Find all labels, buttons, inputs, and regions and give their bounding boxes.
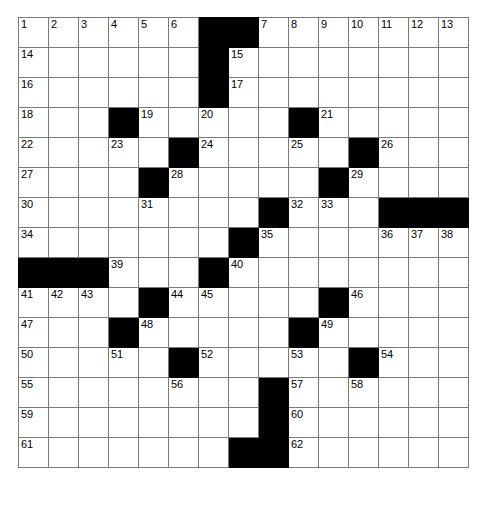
grid-cell[interactable] xyxy=(49,168,79,198)
grid-cell[interactable] xyxy=(229,348,259,378)
grid-cell[interactable] xyxy=(139,138,169,168)
grid-cell[interactable] xyxy=(139,438,169,468)
grid-cell[interactable] xyxy=(49,378,79,408)
grid-cell[interactable] xyxy=(379,288,409,318)
grid-cell[interactable] xyxy=(439,378,469,408)
grid-cell[interactable] xyxy=(79,168,109,198)
grid-cell[interactable]: 48 xyxy=(139,318,169,348)
grid-cell[interactable] xyxy=(109,228,139,258)
grid-cell[interactable]: 32 xyxy=(289,198,319,228)
grid-cell[interactable]: 33 xyxy=(319,198,349,228)
grid-cell[interactable]: 45 xyxy=(199,288,229,318)
grid-cell[interactable] xyxy=(169,48,199,78)
grid-cell[interactable] xyxy=(319,348,349,378)
grid-cell[interactable]: 5 xyxy=(139,18,169,48)
grid-cell[interactable] xyxy=(319,48,349,78)
grid-cell[interactable] xyxy=(439,108,469,138)
grid-cell[interactable] xyxy=(259,348,289,378)
grid-cell[interactable] xyxy=(439,288,469,318)
grid-cell[interactable]: 1 xyxy=(19,18,49,48)
grid-cell[interactable]: 4 xyxy=(109,18,139,48)
grid-cell[interactable] xyxy=(349,108,379,138)
grid-cell[interactable] xyxy=(259,258,289,288)
grid-cell[interactable] xyxy=(439,78,469,108)
grid-cell[interactable]: 58 xyxy=(349,378,379,408)
grid-cell[interactable]: 52 xyxy=(199,348,229,378)
grid-cell[interactable] xyxy=(319,258,349,288)
grid-cell[interactable] xyxy=(169,438,199,468)
grid-cell[interactable] xyxy=(49,348,79,378)
grid-cell[interactable] xyxy=(439,138,469,168)
grid-cell[interactable] xyxy=(259,78,289,108)
grid-cell[interactable] xyxy=(409,108,439,138)
grid-cell[interactable]: 19 xyxy=(139,108,169,138)
grid-cell[interactable] xyxy=(49,78,79,108)
grid-cell[interactable] xyxy=(409,348,439,378)
grid-cell[interactable] xyxy=(139,48,169,78)
grid-cell[interactable]: 49 xyxy=(319,318,349,348)
grid-cell[interactable] xyxy=(169,228,199,258)
grid-cell[interactable]: 44 xyxy=(169,288,199,318)
grid-cell[interactable] xyxy=(79,348,109,378)
grid-cell[interactable] xyxy=(49,48,79,78)
grid-cell[interactable] xyxy=(49,138,79,168)
grid-cell[interactable]: 37 xyxy=(409,228,439,258)
grid-cell[interactable] xyxy=(109,408,139,438)
grid-cell[interactable]: 23 xyxy=(109,138,139,168)
grid-cell[interactable]: 16 xyxy=(19,78,49,108)
grid-cell[interactable] xyxy=(79,78,109,108)
grid-cell[interactable] xyxy=(109,48,139,78)
grid-cell[interactable] xyxy=(169,108,199,138)
grid-cell[interactable]: 26 xyxy=(379,138,409,168)
grid-cell[interactable] xyxy=(169,258,199,288)
grid-cell[interactable] xyxy=(229,108,259,138)
grid-cell[interactable] xyxy=(409,48,439,78)
grid-cell[interactable] xyxy=(79,378,109,408)
grid-cell[interactable]: 43 xyxy=(79,288,109,318)
grid-cell[interactable] xyxy=(109,378,139,408)
grid-cell[interactable] xyxy=(439,48,469,78)
grid-cell[interactable]: 30 xyxy=(19,198,49,228)
grid-cell[interactable] xyxy=(319,138,349,168)
grid-cell[interactable]: 12 xyxy=(409,18,439,48)
grid-cell[interactable] xyxy=(259,168,289,198)
grid-cell[interactable]: 11 xyxy=(379,18,409,48)
grid-cell[interactable] xyxy=(139,378,169,408)
grid-cell[interactable]: 17 xyxy=(229,78,259,108)
grid-cell[interactable] xyxy=(319,228,349,258)
grid-cell[interactable] xyxy=(229,408,259,438)
grid-cell[interactable]: 55 xyxy=(19,378,49,408)
grid-cell[interactable] xyxy=(49,408,79,438)
grid-cell[interactable] xyxy=(349,198,379,228)
grid-cell[interactable]: 47 xyxy=(19,318,49,348)
grid-cell[interactable] xyxy=(289,288,319,318)
grid-cell[interactable] xyxy=(439,168,469,198)
grid-cell[interactable] xyxy=(79,438,109,468)
grid-cell[interactable]: 28 xyxy=(169,168,199,198)
grid-cell[interactable] xyxy=(79,138,109,168)
grid-cell[interactable] xyxy=(379,168,409,198)
grid-cell[interactable]: 31 xyxy=(139,198,169,228)
grid-cell[interactable] xyxy=(229,378,259,408)
grid-cell[interactable]: 9 xyxy=(319,18,349,48)
grid-cell[interactable] xyxy=(349,228,379,258)
grid-cell[interactable]: 60 xyxy=(289,408,319,438)
grid-cell[interactable]: 41 xyxy=(19,288,49,318)
grid-cell[interactable]: 22 xyxy=(19,138,49,168)
grid-cell[interactable]: 54 xyxy=(379,348,409,378)
grid-cell[interactable] xyxy=(139,408,169,438)
grid-cell[interactable] xyxy=(259,318,289,348)
grid-cell[interactable]: 50 xyxy=(19,348,49,378)
grid-cell[interactable] xyxy=(229,138,259,168)
grid-cell[interactable] xyxy=(439,318,469,348)
crossword-grid[interactable]: 1234567891011121314151617181920212223242… xyxy=(18,17,469,468)
grid-cell[interactable]: 6 xyxy=(169,18,199,48)
grid-cell[interactable] xyxy=(439,348,469,378)
grid-cell[interactable] xyxy=(79,198,109,228)
grid-cell[interactable] xyxy=(379,378,409,408)
grid-cell[interactable] xyxy=(319,378,349,408)
grid-cell[interactable]: 42 xyxy=(49,288,79,318)
grid-cell[interactable] xyxy=(199,318,229,348)
grid-cell[interactable] xyxy=(289,228,319,258)
grid-cell[interactable] xyxy=(259,138,289,168)
